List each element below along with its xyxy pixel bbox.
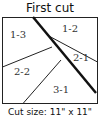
piece-label-1-2: 1-2 (62, 23, 78, 35)
piece-label-3-1: 3-1 (53, 84, 69, 96)
cut-size-caption: Cut size: 11" x 11" (0, 105, 100, 119)
piece-label-2-2: 2-2 (14, 66, 30, 78)
piece-label-1-3: 1-3 (10, 29, 26, 41)
piece-label-2-1: 2-1 (73, 52, 89, 64)
